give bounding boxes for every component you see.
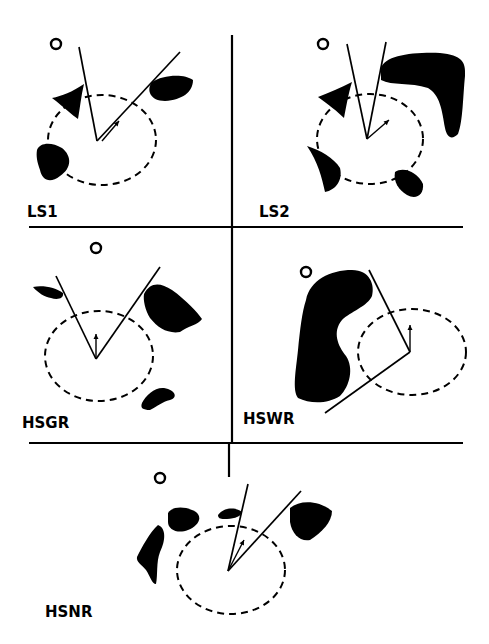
panel-label: LS2: [259, 203, 290, 221]
goal-marker-icon: [318, 39, 328, 49]
goal-marker-icon: [51, 39, 61, 49]
panel-label: HSWR: [243, 410, 295, 428]
panel-label: HSGR: [22, 414, 70, 432]
obstacle-shape: [218, 509, 242, 519]
goal-marker-icon: [155, 473, 165, 483]
diagram-canvas: LS1LS2HSGRHSWRHSNR: [0, 0, 489, 644]
boundary-ray: [56, 276, 96, 359]
obstacle-shape: [381, 53, 465, 138]
panel-hswr: HSWR: [243, 267, 466, 428]
obstacle-shape: [290, 502, 332, 540]
arrowhead-icon: [408, 325, 413, 330]
obstacle-shape: [144, 284, 202, 332]
panel-hsgr: HSGR: [22, 243, 202, 432]
panel-label: LS1: [27, 203, 58, 221]
panel-label: HSNR: [45, 603, 93, 621]
obstacle-shape: [307, 146, 341, 192]
goal-marker-icon: [91, 243, 101, 253]
obstacle-shape: [395, 170, 423, 197]
obstacle-shape: [37, 144, 70, 181]
sensing-range-ellipse: [358, 309, 466, 395]
boundary-ray: [347, 44, 367, 139]
obstacle-shape: [52, 84, 84, 119]
obstacle-shape: [318, 82, 352, 118]
obstacle-shape: [137, 525, 164, 584]
boundary-ray: [228, 491, 301, 571]
obstacle-shape: [33, 286, 63, 299]
obstacle-shape: [141, 388, 174, 410]
sensing-range-ellipse: [177, 526, 285, 614]
obstacle-shape: [168, 508, 199, 532]
obstacle-shape: [149, 76, 193, 101]
panel-hsnr: HSNR: [45, 473, 332, 621]
panel-ls2: LS2: [259, 39, 465, 221]
goal-marker-icon: [301, 267, 311, 277]
boundary-ray: [369, 270, 410, 352]
panel-ls1: LS1: [27, 39, 193, 221]
panels: LS1LS2HSGRHSWRHSNR: [22, 39, 466, 621]
arrowhead-icon: [94, 334, 99, 339]
